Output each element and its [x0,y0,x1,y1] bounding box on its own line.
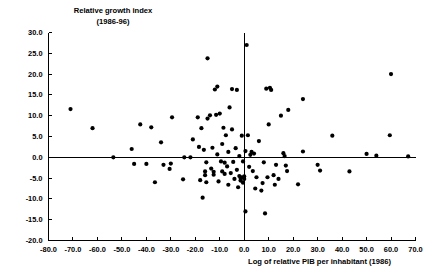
data-point [242,177,246,181]
data-point [389,72,393,76]
data-point [199,126,203,130]
scatter-chart-figure: Relative growth index (1986-96) 30.025.0… [0,0,426,274]
data-point [130,147,134,151]
data-point-series [68,43,410,216]
y-tick-label: 5.0 [9,132,43,141]
data-point [406,154,410,158]
data-point [286,108,290,112]
data-point [279,114,283,118]
data-point [264,87,268,91]
data-point [216,179,220,183]
data-point [247,165,251,169]
y-tick-label: -5.0 [9,174,43,183]
data-point [318,169,322,173]
data-point [263,211,267,215]
data-point [215,152,219,156]
y-tick-label: 30.0 [9,28,43,37]
data-point [246,133,250,137]
data-point [259,188,263,192]
data-point [149,125,153,129]
data-point [90,126,94,130]
data-point [236,185,240,189]
data-point [197,145,201,149]
data-point [215,84,219,88]
data-point [159,140,163,144]
data-point [276,177,280,181]
data-point [210,146,214,150]
data-point [205,117,209,121]
y-tick-label: -10.0 [9,194,43,203]
data-point [234,146,238,150]
data-point [208,113,212,117]
data-point [203,169,207,173]
data-point [230,127,234,131]
data-point [111,155,115,159]
data-point [269,88,273,92]
y-tick-label: 0.0 [9,153,43,162]
data-point [257,139,261,143]
data-point [240,134,244,138]
data-point [161,163,165,167]
data-point [231,160,235,164]
data-point [188,155,192,159]
data-point [301,149,305,153]
data-point [201,196,205,200]
data-point [252,151,256,155]
data-point [388,133,392,137]
data-point [374,154,378,158]
data-point [68,107,72,111]
data-point [202,148,206,152]
data-point [212,173,216,177]
data-point [364,152,368,156]
data-point [267,122,271,126]
plot-area [0,0,426,274]
data-point [227,105,231,109]
data-point [168,167,172,171]
data-point [253,186,257,190]
data-point [235,88,239,92]
data-point [243,149,247,153]
data-point [225,164,229,168]
y-tick-label: 15.0 [9,90,43,99]
data-point [209,166,213,170]
data-point [153,180,157,184]
data-point [296,182,300,186]
data-point [245,43,249,47]
data-point [241,159,245,163]
data-point [182,155,186,159]
data-point [204,180,208,184]
data-point [271,173,275,177]
data-point [203,173,207,177]
data-point [243,209,247,213]
data-point [223,172,227,176]
data-point [224,133,228,137]
data-point [191,137,195,141]
data-point [283,154,287,158]
data-point [198,178,202,182]
data-point [144,162,148,166]
x-axis-title: Log of relative PIB per inhabitant (1986… [248,257,391,266]
data-point [254,175,258,179]
data-point [221,126,225,130]
data-point [226,183,230,187]
y-tick-label: 10.0 [9,111,43,120]
data-point [251,169,255,173]
y-tick-label: -15.0 [9,215,43,224]
data-point [218,112,222,116]
data-point [220,142,224,146]
data-point [316,163,320,167]
data-point [274,163,278,167]
data-point [284,164,288,168]
data-point [226,150,230,154]
x-tick-label: 70.0 [399,245,426,254]
data-point [241,181,245,185]
data-point [347,169,351,173]
data-point [229,171,233,175]
data-point [214,113,218,117]
data-point [170,115,174,119]
y-tick-label: 20.0 [9,70,43,79]
data-point [169,161,173,165]
data-point [273,183,277,187]
data-point [230,87,234,91]
data-point [235,168,239,172]
